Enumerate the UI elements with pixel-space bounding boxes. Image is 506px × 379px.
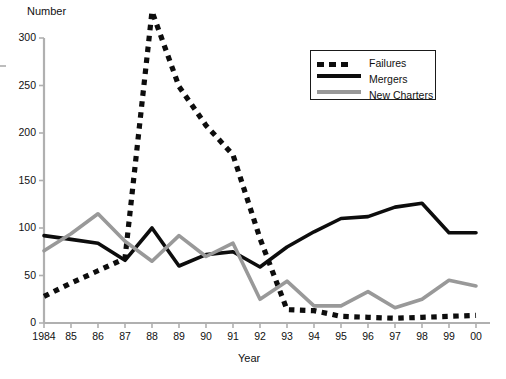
y-tick-label: 200: [0, 126, 36, 138]
solid-black-line-swatch-icon: [317, 74, 361, 88]
solid-gray-line-swatch-icon: [317, 90, 361, 104]
legend-label-mergers: Mergers: [369, 73, 408, 85]
y-tick-label: 50: [0, 269, 36, 281]
chart-container: Number Year 0501001502002503001984858687…: [0, 0, 506, 379]
series-line-mergers: [44, 203, 476, 267]
legend-item-new-charters: New Charters: [317, 87, 433, 103]
y-tick-label: 300: [0, 31, 36, 43]
legend-label-new-charters: New Charters: [369, 89, 433, 101]
y-tick-label: 150: [0, 174, 36, 186]
chart-legend: Failures Mergers New Charters: [310, 50, 436, 100]
series-line-new-charters: [44, 214, 476, 308]
x-tick-label: 00: [456, 330, 496, 342]
legend-item-mergers: Mergers: [317, 71, 408, 87]
y-tick-label: 250: [0, 79, 36, 91]
y-tick-label: 100: [0, 221, 36, 233]
y-tick-label: 0: [0, 316, 36, 328]
legend-item-failures: Failures: [317, 55, 406, 71]
dotted-line-swatch-icon: [317, 60, 361, 70]
legend-label-failures: Failures: [369, 57, 406, 69]
